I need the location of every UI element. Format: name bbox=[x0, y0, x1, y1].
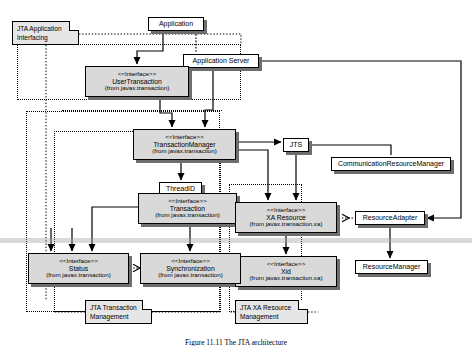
node-resource-manager[interactable]: ResourceManager bbox=[355, 260, 428, 274]
node-xid-package: (from javax.transaction.xa) bbox=[250, 275, 323, 282]
node-status[interactable]: <<Interface>> Status (from javax.transac… bbox=[28, 253, 129, 284]
node-resource-manager-label: ResourceManager bbox=[363, 263, 421, 270]
figure-caption: Figure 11.11 The JTA architecture bbox=[0, 338, 472, 346]
note-jta-xa-resource-management-line1: JTA XA Resource bbox=[240, 304, 303, 313]
node-xid[interactable]: <<Interface>> Xid (from javax.transactio… bbox=[235, 256, 337, 287]
node-application-label: Application bbox=[159, 20, 193, 27]
jta-architecture-diagram: Application Application Server JTS Commu… bbox=[0, 0, 472, 346]
node-transaction-manager[interactable]: <<Interface>> TransactionManager (from j… bbox=[133, 129, 236, 160]
node-application-server-label: Application Server bbox=[193, 57, 250, 64]
node-communication-resource-manager[interactable]: CommunicationResourceManager bbox=[331, 157, 451, 171]
node-application[interactable]: Application bbox=[148, 17, 204, 31]
note-jta-application-interfacing[interactable]: JTA Application Interfacing bbox=[12, 21, 79, 45]
region-server-span bbox=[62, 101, 222, 111]
node-xa-resource-package: (from javax.transaction.xa) bbox=[250, 221, 323, 228]
note-jta-transaction-management-line2: Management bbox=[90, 313, 147, 322]
node-jts-label: JTS bbox=[290, 141, 302, 148]
note-jta-xa-resource-management-line2: Management bbox=[240, 313, 303, 322]
note-jta-application-interfacing-line2: Interfacing bbox=[17, 34, 74, 43]
note-jta-transaction-management-line1: JTA Transaction bbox=[90, 304, 147, 313]
node-synchronization-package: (from javax.transaction) bbox=[158, 272, 223, 279]
note-jta-xa-resource-management[interactable]: JTA XA Resource Management bbox=[235, 300, 308, 324]
note-jta-transaction-management[interactable]: JTA Transaction Management bbox=[85, 300, 152, 324]
node-resource-adapter[interactable]: ResourceAdapter bbox=[355, 211, 425, 225]
node-user-transaction[interactable]: <<Interface>> UserTransaction (from java… bbox=[85, 66, 189, 97]
note-fold-icon bbox=[298, 300, 308, 310]
note-fold-icon bbox=[69, 21, 79, 31]
node-user-transaction-package: (from javax.transaction) bbox=[105, 85, 170, 92]
node-synchronization[interactable]: <<Interface>> Synchronization (from java… bbox=[140, 253, 241, 284]
node-status-package: (from javax.transaction) bbox=[46, 272, 111, 279]
node-threadid-label: ThreadID bbox=[166, 185, 195, 192]
node-communication-resource-manager-label: CommunicationResourceManager bbox=[338, 160, 444, 167]
node-resource-adapter-label: ResourceAdapter bbox=[363, 214, 417, 221]
node-application-server[interactable]: Application Server bbox=[183, 54, 259, 68]
node-xa-resource[interactable]: <<Interface>> XA Resource (from javax.tr… bbox=[235, 202, 337, 233]
note-fold-icon bbox=[142, 300, 152, 310]
note-jta-application-interfacing-line1: JTA Application bbox=[17, 25, 74, 34]
node-transaction[interactable]: <<Interface>> Transaction (from javax.tr… bbox=[138, 193, 237, 224]
node-transaction-manager-package: (from javax.transaction) bbox=[152, 148, 217, 155]
node-transaction-package: (from javax.transaction) bbox=[155, 212, 220, 219]
node-jts[interactable]: JTS bbox=[283, 138, 309, 152]
